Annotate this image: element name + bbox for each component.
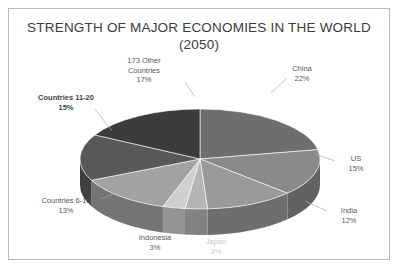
leader-line-countries-11-20 <box>95 109 112 131</box>
slice-label-text2: Countries <box>105 66 183 76</box>
slice-label-percent: 13% <box>27 206 105 216</box>
slice-label-india: India 12% <box>329 206 369 225</box>
slice-label-173-other-countries: 173 Other Countries 17% <box>105 56 183 85</box>
slice-label-percent: 22% <box>277 74 327 84</box>
slice-label-percent: 12% <box>329 216 369 226</box>
slice-label-us: US 15% <box>339 154 373 173</box>
slice-label-text: Countries 6-10 <box>27 196 105 206</box>
pie-top-slices <box>80 109 320 209</box>
pie-side-wall-japan <box>185 209 208 235</box>
slice-label-text: US <box>339 154 373 164</box>
slice-label-text: Japan <box>195 237 237 247</box>
chart-frame: STRENGTH OF MAJOR ECONOMIES IN THE WORLD… <box>8 8 390 260</box>
slice-label-percent: 17% <box>105 75 183 85</box>
slice-label-indonesia: Indonesia 3% <box>126 233 184 252</box>
slice-label-percent: 3% <box>126 243 184 253</box>
slice-label-countries-6-10: Countries 6-10 13% <box>27 196 105 215</box>
slice-label-japan: Japan 3% <box>195 237 237 256</box>
slice-label-text: Indonesia <box>126 233 184 243</box>
leader-line-other-countries <box>185 82 195 97</box>
slice-label-china: China 22% <box>277 64 327 83</box>
slice-label-text: Countries 11-20 <box>19 93 113 103</box>
slice-label-percent: 15% <box>339 164 373 174</box>
slice-label-percent: 3% <box>195 247 237 257</box>
slice-label-countries-11-20: Countries 11-20 15% <box>19 93 113 112</box>
slice-label-percent: 15% <box>19 103 113 113</box>
slice-label-text: 173 Other <box>105 56 183 66</box>
pie-side-wall-indonesia <box>163 207 185 235</box>
slice-label-text: China <box>277 64 327 74</box>
slice-label-text: India <box>329 206 369 216</box>
